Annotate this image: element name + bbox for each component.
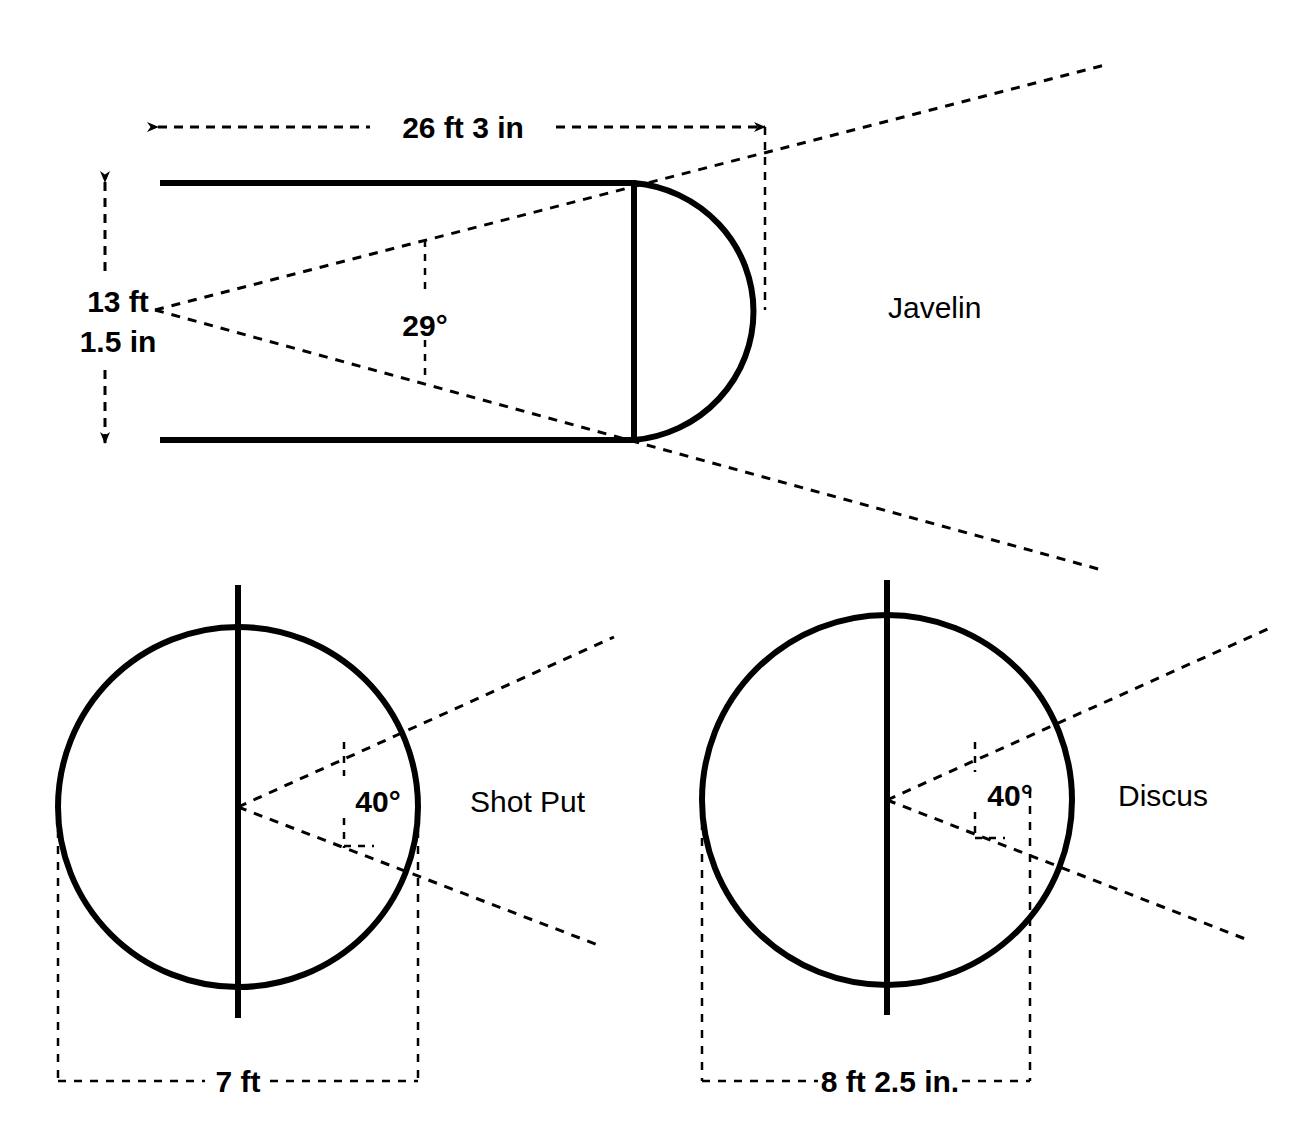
diagram-root: 26 ft 3 in 13 ft 1.5 in 29° — [0, 0, 1313, 1124]
javelin-event-label: Javelin — [888, 291, 981, 324]
javelin-throwing-arc — [634, 183, 753, 440]
shot-put-sector-line-upper — [238, 637, 614, 807]
discus-event-label: Discus — [1118, 779, 1208, 812]
throwing-sector-diagram: 26 ft 3 in 13 ft 1.5 in 29° — [0, 0, 1313, 1124]
javelin-length-label: 26 ft 3 in — [402, 111, 524, 144]
discus-diameter-label: 8 ft 2.5 in. — [821, 1065, 959, 1098]
discus-angle-label: 40° — [987, 779, 1032, 812]
javelin-length-dimension: 26 ft 3 in — [158, 111, 765, 310]
javelin-sector-line-upper — [155, 65, 1105, 310]
javelin-width-label-line2: 1.5 in — [80, 325, 157, 358]
discus-diameter-dimension: 8 ft 2.5 in. — [702, 790, 1030, 1098]
shot-put-event-label: Shot Put — [470, 785, 586, 818]
javelin-width-dimension: 13 ft 1.5 in — [80, 182, 157, 443]
shot-put-panel: 40° 7 ft Shot Put — [58, 585, 614, 1098]
javelin-width-label-line1: 13 ft — [87, 285, 149, 318]
shot-put-angle-label: 40° — [355, 785, 400, 818]
shot-put-diameter-label: 7 ft — [216, 1065, 261, 1098]
discus-sector-line-upper — [887, 628, 1270, 800]
javelin-angle-label: 29° — [402, 309, 447, 342]
discus-sector-line-lower — [887, 800, 1248, 940]
discus-panel: 40° 8 ft 2.5 in. Discus — [702, 580, 1270, 1098]
javelin-panel: 26 ft 3 in 13 ft 1.5 in 29° — [80, 65, 1105, 570]
